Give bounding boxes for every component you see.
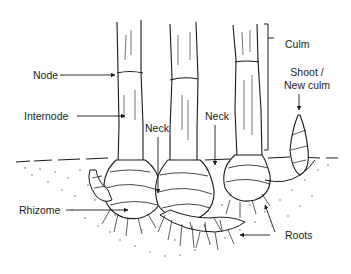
roots-leader-2 [265, 205, 275, 232]
label-shoot-line1: Shoot / [282, 66, 332, 78]
new-shoot [290, 115, 308, 175]
culm-bracket [264, 24, 274, 150]
label-neck-left: Neck [145, 122, 169, 134]
label-neck-right: Neck [205, 110, 229, 122]
label-roots: Roots [285, 229, 312, 241]
culm-middle [170, 22, 198, 165]
culm-bases [104, 155, 270, 220]
label-internode: Internode [24, 110, 68, 122]
label-node: Node [33, 69, 58, 81]
label-rhizome: Rhizome [19, 204, 60, 216]
label-culm: Culm [285, 38, 310, 50]
culm-left [117, 20, 143, 165]
culm-right [233, 24, 262, 158]
label-shoot-line2: New culm [277, 79, 337, 91]
